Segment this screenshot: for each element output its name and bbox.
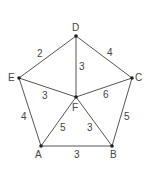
edge-weight-d-e: 2 [37,48,43,59]
edge-weight-f-b: 3 [87,122,93,133]
node-c [130,76,134,80]
node-f [74,95,78,99]
edge-weight-a-b: 3 [74,149,80,160]
edge-weight-f-a: 5 [60,122,66,133]
node-label-d: D [72,22,79,33]
node-a [39,144,43,148]
edge-f-a [41,97,76,146]
edge-weight-e-f: 3 [42,90,48,101]
weighted-graph-diagram: 2433645533 DCEFAB [0,0,160,173]
edge-weight-d-c: 4 [107,47,113,58]
edge-f-b [76,97,112,146]
edge-weight-d-f: 3 [79,61,85,72]
node-b [110,144,114,148]
node-label-e: E [8,72,15,83]
node-label-a: A [35,149,42,160]
node-e [17,76,21,80]
node-label-f: F [72,102,78,113]
node-label-c: C [135,72,142,83]
edge-weight-e-a: 4 [21,111,27,122]
node-labels: DCEFAB [8,22,142,160]
edge-d-e [19,36,76,78]
edge-weight-c-f: 6 [103,89,109,100]
edge-weight-c-b: 5 [124,111,130,122]
edges [19,36,132,146]
node-label-b: B [110,149,117,160]
node-d [74,34,78,38]
